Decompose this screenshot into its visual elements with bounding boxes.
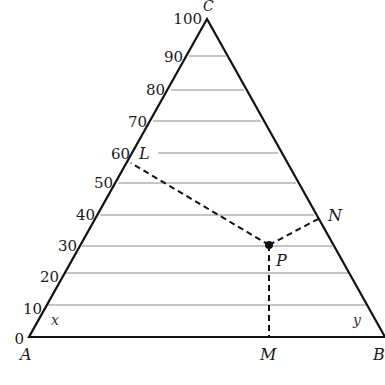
line-PL: [131, 163, 269, 245]
side-label-x: x: [51, 312, 59, 328]
construction-lines: [131, 163, 320, 337]
point-label-M: M: [259, 345, 277, 364]
point-P-marker: [265, 241, 273, 249]
point-label-N: N: [327, 206, 343, 225]
tick-80: 80: [146, 81, 165, 99]
axis-tick-labels: 0 10 20 30 40 50 60 70 80 90 100: [14, 10, 202, 348]
tick-100: 100: [173, 10, 202, 28]
vertex-label-B: B: [372, 345, 385, 364]
tick-70: 70: [128, 113, 147, 131]
line-PN: [269, 218, 320, 245]
point-label-P: P: [275, 251, 287, 270]
point-label-L: L: [138, 144, 150, 163]
tick-10: 10: [23, 300, 42, 318]
side-label-y: y: [352, 312, 362, 328]
tick-40: 40: [76, 206, 95, 224]
tick-60: 60: [111, 145, 130, 163]
ternary-diagram: 0 10 20 30 40 50 60 70 80 90 100 A B C L…: [0, 0, 385, 385]
tick-50: 50: [94, 174, 113, 192]
triangle-outline: [29, 19, 385, 337]
tick-30: 30: [58, 237, 77, 255]
tick-20: 20: [40, 268, 59, 286]
vertex-label-C: C: [203, 0, 214, 14]
vertex-label-A: A: [18, 345, 32, 364]
tick-90: 90: [164, 48, 183, 66]
